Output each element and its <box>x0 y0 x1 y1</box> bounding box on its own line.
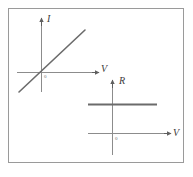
chart-iv-data-line <box>19 30 85 92</box>
chart-rv-origin-label: 0 <box>115 136 118 141</box>
chart-iv <box>17 18 99 92</box>
chart-iv-origin-label: 0 <box>44 74 47 79</box>
chart-rv-y-axis-label: R <box>119 76 125 86</box>
chart-rv <box>88 80 171 155</box>
plots-svg <box>0 0 193 177</box>
chart-iv-y-axis-label: I <box>47 14 50 24</box>
chart-iv-x-axis-label: V <box>101 64 107 74</box>
chart-rv-x-axis-label: V <box>173 128 179 138</box>
figure-container: I V 0 R V 0 <box>0 0 193 177</box>
